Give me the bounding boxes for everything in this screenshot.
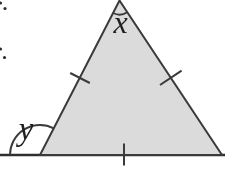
stray-dot — [3, 7, 6, 10]
stray-dot — [3, 56, 6, 59]
stray-dot — [0, 47, 2, 50]
triangle-shape — [40, 1, 222, 156]
apex-angle-label: x — [112, 4, 127, 40]
geometry-figure: x y — [0, 0, 228, 173]
stray-dot — [0, 1, 2, 4]
diagram-canvas: x y — [0, 0, 228, 173]
exterior-angle-label: y — [16, 111, 34, 147]
left-edge-stray-dots — [0, 1, 7, 59]
